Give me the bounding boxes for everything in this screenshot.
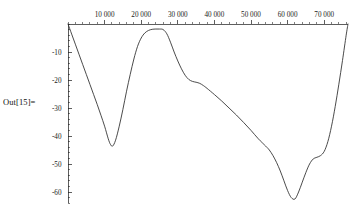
x-tick-label: 60 000 <box>278 11 298 19</box>
y-tick-label: -40 <box>52 133 62 141</box>
x-tick-label: 20 000 <box>131 11 151 19</box>
y-tick-label: -20 <box>52 77 62 85</box>
mathematica-output-cell: Out[15]= 10 00020 00030 00040 00050 0006… <box>0 0 357 206</box>
y-tick-label: -30 <box>52 105 62 113</box>
x-tick-label: 70 000 <box>314 11 334 19</box>
x-axis-major-ticks <box>105 20 325 24</box>
y-tick-label: -60 <box>52 189 62 197</box>
x-tick-label: 30 000 <box>168 11 188 19</box>
x-tick-label: 50 000 <box>241 11 261 19</box>
x-axis-tick-labels: 10 00020 00030 00040 00050 00060 00070 0… <box>95 11 335 19</box>
x-tick-label: 10 000 <box>95 11 115 19</box>
x-axis-minor-ticks <box>68 22 346 24</box>
x-tick-label: 40 000 <box>205 11 225 19</box>
y-tick-label: -10 <box>52 49 62 57</box>
line-chart: 10 00020 00030 00040 00050 00060 00070 0… <box>0 0 357 206</box>
y-axis-tick-labels: -10-20-30-40-50-60 <box>52 49 62 197</box>
y-tick-label: -50 <box>52 161 62 169</box>
y-axis-major-ticks <box>68 52 72 192</box>
data-curve <box>68 24 348 199</box>
y-axis-minor-ticks <box>68 24 70 203</box>
